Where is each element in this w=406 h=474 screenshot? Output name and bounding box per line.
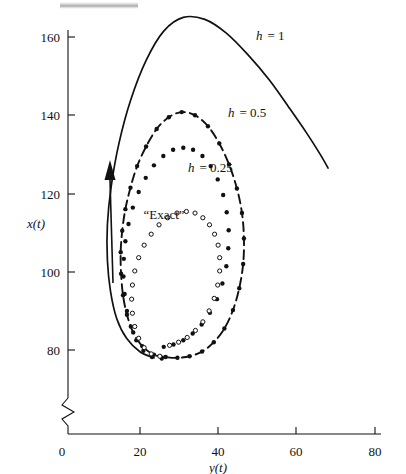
x-ticks (140, 427, 375, 434)
data-point (118, 250, 122, 254)
data-point (216, 243, 220, 247)
data-point (131, 205, 135, 209)
data-point (121, 274, 125, 278)
label-h-1: h= 1 (256, 28, 285, 43)
data-point (216, 283, 220, 287)
x-tick-label-40: 40 (212, 444, 225, 459)
data-point (187, 354, 191, 358)
data-point (157, 223, 161, 227)
data-point (181, 146, 185, 150)
data-point (122, 257, 126, 261)
data-point (167, 343, 171, 347)
data-point (201, 216, 205, 220)
label-h-05-val: = 0.5 (240, 105, 267, 120)
label-h-1-val: = 1 (268, 28, 285, 43)
data-point (130, 311, 134, 315)
data-point (130, 297, 134, 301)
data-point (142, 243, 146, 247)
data-point (176, 340, 180, 344)
data-point (193, 113, 197, 117)
data-point (161, 154, 165, 158)
y-tick-label-160: 160 (41, 30, 61, 45)
data-point (144, 144, 148, 148)
data-point (212, 296, 216, 300)
axes-group: 160 140 120 100 80 0 20 40 60 80 x(t) y(… (26, 30, 382, 474)
x-tick-label-60: 60 (290, 444, 303, 459)
data-point (158, 354, 162, 358)
data-point (122, 292, 126, 296)
data-point (171, 147, 175, 151)
y-tick-label-80: 80 (47, 343, 60, 358)
data-point (136, 190, 140, 194)
data-point (241, 262, 245, 266)
data-point (206, 124, 210, 128)
x-tick-label-80: 80 (369, 444, 382, 459)
series-3 (130, 209, 222, 358)
data-point (167, 115, 171, 119)
data-point (180, 110, 184, 114)
data-point (123, 207, 127, 211)
label-h-025-var: h (188, 160, 195, 175)
data-point (207, 309, 211, 313)
data-point (133, 269, 137, 273)
y-ticks (68, 37, 75, 350)
y-tick-label-140: 140 (41, 108, 61, 123)
data-point (207, 223, 211, 227)
x-tick-label-20: 20 (134, 444, 147, 459)
data-point (185, 335, 189, 339)
data-point (125, 309, 129, 313)
y-tick-label-120: 120 (41, 187, 61, 202)
data-point (222, 326, 226, 330)
data-point (224, 264, 228, 268)
data-point (154, 127, 158, 131)
data-point (216, 177, 220, 181)
data-point (149, 352, 153, 356)
data-point (142, 346, 146, 350)
data-point (181, 338, 185, 342)
y-axis-break-zigzag (62, 398, 74, 434)
label-h-1-var: h (256, 28, 263, 43)
y-axis-title: x(t) (26, 216, 45, 231)
data-point (175, 356, 179, 360)
data-point (120, 228, 124, 232)
data-point (200, 154, 204, 158)
data-point (225, 210, 229, 214)
data-point (218, 269, 222, 273)
figure-phase-plane: 160 140 120 100 80 0 20 40 60 80 x(t) y(… (0, 0, 406, 474)
data-point (137, 336, 141, 340)
data-point (137, 256, 141, 260)
y-tick-label-100: 100 (41, 265, 61, 280)
data-point (162, 345, 166, 349)
data-point (212, 232, 216, 236)
data-point (133, 324, 137, 328)
data-point (125, 313, 129, 317)
data-point (201, 320, 205, 324)
data-point (226, 246, 230, 250)
data-point (123, 239, 127, 243)
data-point (221, 193, 225, 197)
series-2 (121, 146, 231, 361)
data-point (131, 330, 135, 334)
data-point (144, 176, 148, 180)
data-point (242, 236, 246, 240)
data-point (193, 328, 197, 332)
data-point (191, 147, 195, 151)
data-point (217, 141, 221, 145)
phase-plane-plot: 160 140 120 100 80 0 20 40 60 80 x(t) y(… (0, 0, 406, 474)
data-point (193, 211, 197, 215)
x-tick-label-0: 0 (59, 444, 66, 459)
x-axis-title: y(t) (207, 460, 227, 474)
data-point (212, 340, 216, 344)
data-point (237, 286, 241, 290)
data-point (235, 186, 239, 190)
label-exact: “Exact” (143, 207, 184, 222)
data-point (128, 185, 132, 189)
label-h-025: h= 0.25 (188, 160, 233, 175)
direction-arrow-icon (105, 160, 116, 283)
data-point (130, 283, 134, 287)
data-point (149, 232, 153, 236)
data-series-layer (107, 16, 328, 360)
series-line-0 (107, 16, 328, 357)
data-point (135, 164, 139, 168)
data-point (200, 349, 204, 353)
